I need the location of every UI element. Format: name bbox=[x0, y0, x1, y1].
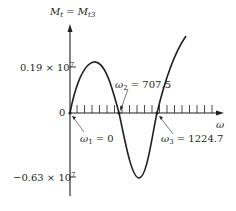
x-axis-arrow-icon bbox=[216, 111, 224, 116]
y-axis-arrow-icon bbox=[68, 24, 73, 32]
leader-w3 bbox=[160, 117, 173, 134]
leader-w1 bbox=[73, 117, 84, 132]
y-axis-title: Mt = Mt3 bbox=[50, 7, 95, 19]
root-marker-w2 bbox=[117, 111, 120, 114]
torque-curve bbox=[70, 36, 186, 178]
root-marker-w1 bbox=[68, 111, 71, 114]
leader-w3-arrow-icon bbox=[159, 116, 163, 120]
y-tick-label-negative: −0.63 × 107 bbox=[13, 172, 76, 183]
root-marker-w3 bbox=[155, 111, 158, 114]
annotation-w3: ω3 = 1224.7 bbox=[161, 134, 223, 146]
x-axis-title: ω bbox=[216, 120, 224, 130]
leader-w2 bbox=[121, 89, 128, 109]
leader-w1-arrow-icon bbox=[72, 116, 76, 120]
annotation-w1: ω1 = 0 bbox=[80, 134, 114, 146]
x-axis-ticks bbox=[77, 105, 212, 113]
y-tick-label-positive: 0.19 × 107 bbox=[20, 62, 74, 73]
annotation-w2: ω2 = 707.5 bbox=[115, 80, 171, 92]
leader-w2-arrow-icon bbox=[120, 106, 123, 111]
y-tick-label-zero: 0 bbox=[59, 108, 65, 118]
